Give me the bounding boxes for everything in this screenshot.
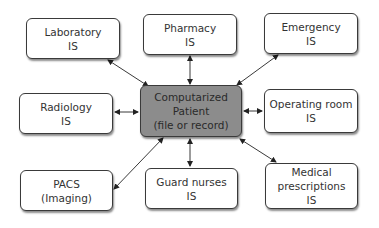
node-label-line: IS [187, 189, 197, 203]
node-label-line: Operating room [270, 97, 353, 111]
node-label-line: Medical [291, 165, 331, 179]
node-emergency: Emergency IS [264, 13, 358, 54]
arrow-laboratory [108, 60, 148, 86]
node-label-line: IS [306, 34, 316, 48]
node-label-line: IS [61, 114, 71, 128]
node-label-line: IS [307, 193, 317, 207]
node-medical-prescriptions: Medical prescriptions IS [265, 163, 358, 209]
center-label-line: Patient [173, 104, 210, 118]
node-radiology: Radiology IS [19, 93, 113, 134]
node-label-line: IS [185, 35, 195, 49]
node-label-line: IS [68, 39, 78, 53]
center-label-line: Computarized [154, 90, 228, 104]
node-label-line: prescriptions [278, 179, 346, 193]
arrow-emergency [237, 55, 278, 85]
node-operating-room: Operating room IS [264, 89, 358, 133]
arrow-medical [240, 139, 276, 162]
node-label-line: Emergency [281, 20, 340, 34]
node-label-line: PACS [53, 177, 80, 191]
node-label-line: IS [306, 111, 316, 125]
node-label-line: Guard nurses [156, 175, 226, 189]
node-computarized-patient: Computarized Patient (file or record) [140, 85, 242, 137]
node-label-line: Pharmacy [164, 21, 216, 35]
node-guard-nurses: Guard nurses IS [145, 168, 238, 209]
node-laboratory: Laboratory IS [26, 18, 120, 59]
node-label-line: Laboratory [44, 25, 101, 39]
node-pacs: PACS (Imaging) [20, 170, 113, 211]
node-label-line: Radiology [40, 100, 92, 114]
node-pharmacy: Pharmacy IS [143, 14, 237, 55]
center-label-line: (file or record) [153, 118, 228, 132]
node-label-line: (Imaging) [41, 191, 92, 205]
